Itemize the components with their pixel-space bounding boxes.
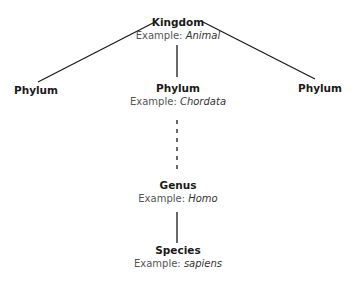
node-species: Species Example: sapiens: [134, 244, 222, 271]
node-phylum-center: Phylum Example: Chordata: [130, 82, 226, 109]
example-prefix: Example:: [130, 96, 180, 107]
example-value: Chordata: [180, 96, 226, 107]
node-phylum-left: Phylum: [14, 84, 58, 97]
node-genus: Genus Example: Homo: [138, 179, 217, 206]
species-example: Example: sapiens: [134, 257, 222, 271]
phylum-center-example: Example: Chordata: [130, 95, 226, 109]
node-phylum-right: Phylum: [298, 82, 342, 95]
node-kingdom: Kingdom Example: Animal: [136, 16, 221, 43]
genus-title: Genus: [138, 179, 217, 192]
genus-example: Example: Homo: [138, 192, 217, 206]
species-title: Species: [134, 244, 222, 257]
example-value: Homo: [188, 193, 218, 204]
example-value: sapiens: [184, 258, 222, 269]
example-prefix: Example:: [138, 193, 188, 204]
kingdom-title: Kingdom: [136, 16, 221, 29]
phylum-center-title: Phylum: [130, 82, 226, 95]
example-value: Animal: [186, 30, 221, 41]
example-prefix: Example:: [134, 258, 184, 269]
kingdom-example: Example: Animal: [136, 29, 221, 43]
example-prefix: Example:: [136, 30, 186, 41]
phylum-right-title: Phylum: [298, 82, 342, 95]
phylum-left-title: Phylum: [14, 84, 58, 97]
